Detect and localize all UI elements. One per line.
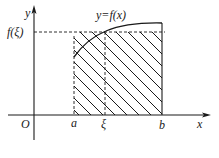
xi-label: ξ bbox=[101, 117, 107, 131]
origin-label: O bbox=[21, 117, 30, 131]
y-axis-label: y bbox=[24, 6, 31, 20]
diagram-canvas: y x O y=f(x) f(ξ) a ξ b bbox=[0, 0, 219, 158]
hatched-region bbox=[0, 20, 219, 120]
x-axis bbox=[8, 113, 211, 118]
curve-label: y=f(x) bbox=[95, 8, 126, 22]
y-axis bbox=[32, 5, 37, 140]
x-axis-label: x bbox=[196, 117, 203, 131]
b-label: b bbox=[159, 118, 165, 132]
a-label: a bbox=[71, 116, 77, 130]
f-xi-label: f(ξ) bbox=[7, 25, 23, 39]
